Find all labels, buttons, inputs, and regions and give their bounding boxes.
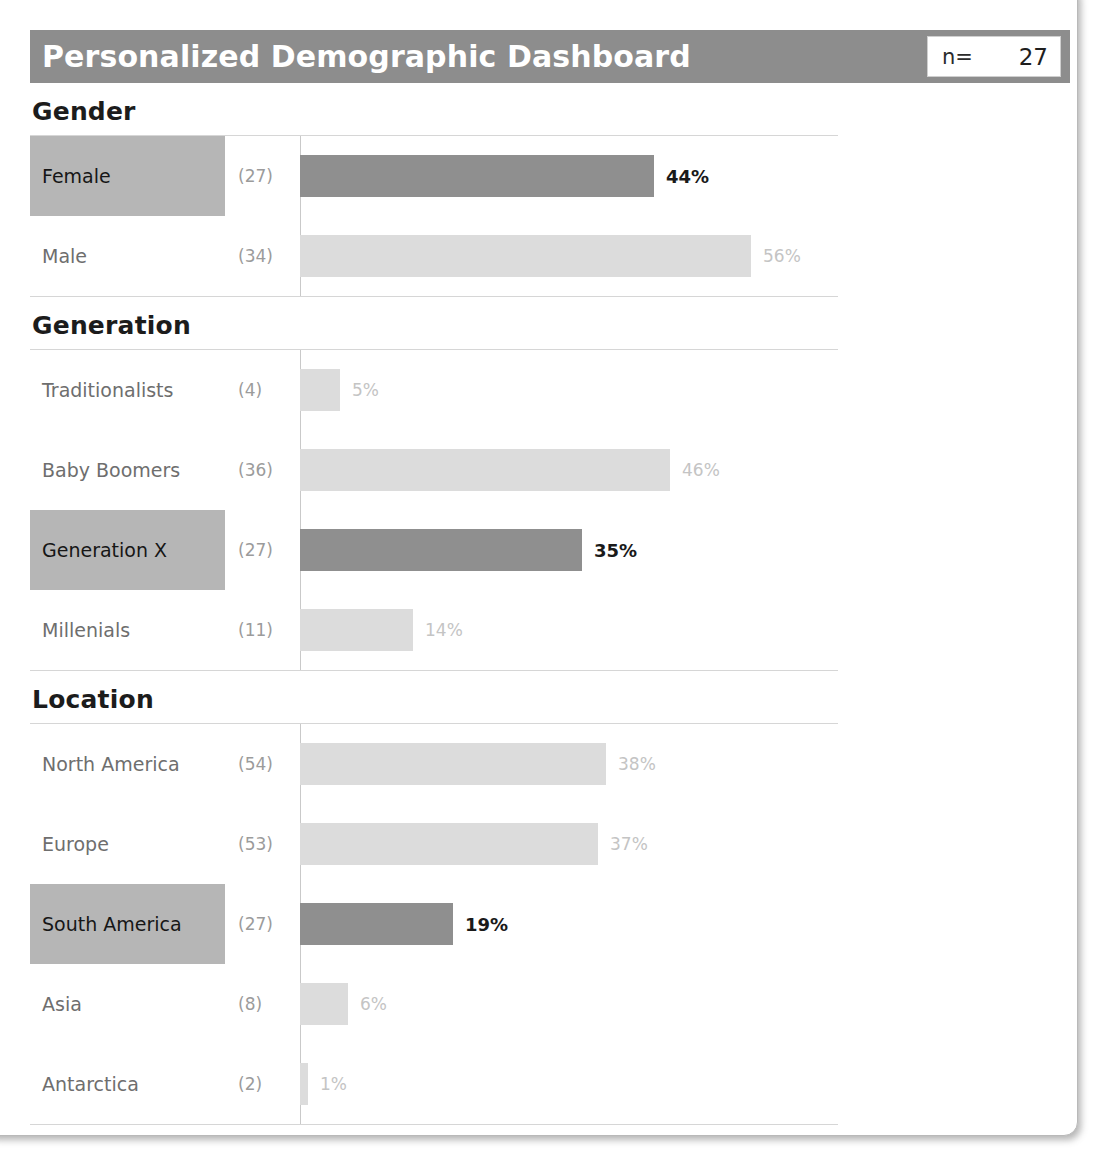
row-bar-cell: 1% xyxy=(300,1044,838,1124)
row-count: (4) xyxy=(238,380,262,400)
bar-value-label: 46% xyxy=(682,460,720,480)
row-label: Generation X xyxy=(42,539,167,561)
row-label: Antarctica xyxy=(42,1073,139,1095)
section-heading: Gender xyxy=(30,83,1070,135)
row-count-cell: (36) xyxy=(225,460,300,480)
table-row[interactable]: Millenials(11)14% xyxy=(30,590,838,670)
table-row[interactable]: Baby Boomers(36)46% xyxy=(30,430,838,510)
row-bar-cell: 5% xyxy=(300,350,838,430)
section-gender: GenderFemale(27)44%Male(34)56% xyxy=(30,83,1070,297)
bar-value-label: 37% xyxy=(610,834,648,854)
bar xyxy=(300,1063,308,1105)
row-label-cell[interactable]: Baby Boomers xyxy=(30,430,225,510)
table-row[interactable]: Europe(53)37% xyxy=(30,804,838,884)
row-count-cell: (54) xyxy=(225,754,300,774)
row-label-cell[interactable]: Europe xyxy=(30,804,225,884)
section-heading: Location xyxy=(30,671,1070,723)
row-count: (36) xyxy=(238,460,273,480)
row-count: (53) xyxy=(238,834,273,854)
row-label: Baby Boomers xyxy=(42,459,180,481)
table-row[interactable]: Asia(8)6% xyxy=(30,964,838,1044)
row-bar-cell: 37% xyxy=(300,804,838,884)
bar xyxy=(300,529,582,571)
row-bar-cell: 56% xyxy=(300,216,838,296)
row-count: (27) xyxy=(238,540,273,560)
row-count-cell: (11) xyxy=(225,620,300,640)
bar-value-label: 56% xyxy=(763,246,801,266)
row-label-cell[interactable]: Male xyxy=(30,216,225,296)
row-count-cell: (8) xyxy=(225,994,300,1014)
row-count: (27) xyxy=(238,914,273,934)
bar-value-label: 1% xyxy=(320,1074,347,1094)
row-label-cell[interactable]: South America xyxy=(30,884,225,964)
dashboard-header: Personalized Demographic Dashboard n= 27 xyxy=(30,30,1070,83)
section-generation: GenerationTraditionalists(4)5%Baby Boome… xyxy=(30,297,1070,671)
bar xyxy=(300,903,453,945)
row-bar-cell: 38% xyxy=(300,724,838,804)
bar xyxy=(300,449,670,491)
row-count-cell: (27) xyxy=(225,166,300,186)
bar xyxy=(300,823,598,865)
row-count-cell: (34) xyxy=(225,246,300,266)
section-rows: Traditionalists(4)5%Baby Boomers(36)46%G… xyxy=(30,349,838,671)
table-row[interactable]: Antarctica(2)1% xyxy=(30,1044,838,1124)
row-count: (34) xyxy=(238,246,273,266)
sections-container: GenderFemale(27)44%Male(34)56%Generation… xyxy=(30,83,1070,1125)
row-count-cell: (53) xyxy=(225,834,300,854)
bar xyxy=(300,155,654,197)
row-label: North America xyxy=(42,753,180,775)
row-label-cell[interactable]: Female xyxy=(30,136,225,216)
table-row[interactable]: Generation X(27)35% xyxy=(30,510,838,590)
row-bar-cell: 46% xyxy=(300,430,838,510)
row-bar-cell: 35% xyxy=(300,510,838,590)
row-label: Male xyxy=(42,245,87,267)
row-label: Traditionalists xyxy=(42,379,173,401)
row-label-cell[interactable]: Asia xyxy=(30,964,225,1044)
table-row[interactable]: Male(34)56% xyxy=(30,216,838,296)
sample-size-box[interactable]: n= 27 xyxy=(927,36,1061,77)
sample-size-label: n= xyxy=(942,45,973,69)
row-count: (11) xyxy=(238,620,273,640)
section-location: LocationNorth America(54)38%Europe(53)37… xyxy=(30,671,1070,1125)
bar xyxy=(300,743,606,785)
row-bar-cell: 14% xyxy=(300,590,838,670)
bar-value-label: 35% xyxy=(594,540,637,561)
table-row[interactable]: North America(54)38% xyxy=(30,724,838,804)
section-heading: Generation xyxy=(30,297,1070,349)
bar-value-label: 44% xyxy=(666,166,709,187)
row-label-cell[interactable]: Traditionalists xyxy=(30,350,225,430)
row-count-cell: (2) xyxy=(225,1074,300,1094)
row-count-cell: (4) xyxy=(225,380,300,400)
row-label-cell[interactable]: North America xyxy=(30,724,225,804)
row-label: Millenials xyxy=(42,619,130,641)
row-label-cell[interactable]: Millenials xyxy=(30,590,225,670)
row-count: (27) xyxy=(238,166,273,186)
demographic-dashboard: Personalized Demographic Dashboard n= 27… xyxy=(30,30,1070,1130)
row-bar-cell: 44% xyxy=(300,136,838,216)
bar-value-label: 6% xyxy=(360,994,387,1014)
row-count-cell: (27) xyxy=(225,540,300,560)
row-label: Asia xyxy=(42,993,82,1015)
row-label: Europe xyxy=(42,833,109,855)
row-bar-cell: 6% xyxy=(300,964,838,1044)
bar xyxy=(300,369,340,411)
bar-value-label: 5% xyxy=(352,380,379,400)
bar xyxy=(300,235,751,277)
bar-value-label: 14% xyxy=(425,620,463,640)
row-label: Female xyxy=(42,165,111,187)
bar-value-label: 38% xyxy=(618,754,656,774)
table-row[interactable]: Female(27)44% xyxy=(30,136,838,216)
sample-size-value: 27 xyxy=(1019,44,1048,70)
row-bar-cell: 19% xyxy=(300,884,838,964)
bar-value-label: 19% xyxy=(465,914,508,935)
table-row[interactable]: Traditionalists(4)5% xyxy=(30,350,838,430)
row-label-cell[interactable]: Antarctica xyxy=(30,1044,225,1124)
row-count: (2) xyxy=(238,1074,262,1094)
page-title: Personalized Demographic Dashboard xyxy=(30,39,691,74)
table-row[interactable]: South America(27)19% xyxy=(30,884,838,964)
row-label-cell[interactable]: Generation X xyxy=(30,510,225,590)
row-count-cell: (27) xyxy=(225,914,300,934)
row-count: (54) xyxy=(238,754,273,774)
bar xyxy=(300,609,413,651)
section-rows: North America(54)38%Europe(53)37%South A… xyxy=(30,723,838,1125)
